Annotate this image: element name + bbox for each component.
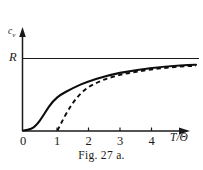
- tick-label-3: 3: [113, 135, 127, 148]
- asymptote-label: R: [9, 51, 17, 64]
- figure-container: cv R 0 1 2 3 4 T/Θ Fig. 27 a.: [0, 0, 203, 170]
- solid-curve-debye: [24, 65, 197, 131]
- y-axis-label: cv: [8, 27, 15, 39]
- tick-label-1: 1: [50, 135, 64, 148]
- dashed-curve-einstein: [58, 66, 197, 131]
- tick-label-2: 2: [82, 135, 96, 148]
- y-axis-label-subscript: v: [12, 31, 15, 39]
- tick-label-0: 0: [16, 135, 30, 148]
- tick-label-4: 4: [145, 135, 159, 148]
- plot-area: [0, 0, 203, 170]
- figure-caption: Fig. 27 a.: [0, 149, 203, 161]
- y-axis-arrow-icon: [19, 27, 26, 37]
- x-axis-label: T/Θ: [170, 132, 188, 144]
